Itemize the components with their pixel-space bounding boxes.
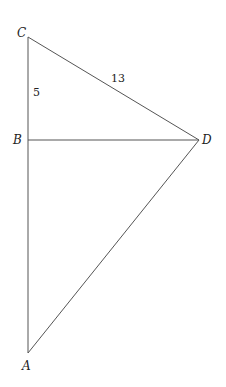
segment-cd bbox=[28, 37, 199, 140]
geometry-diagram: C B D A 5 13 bbox=[0, 0, 226, 387]
length-label-cb: 5 bbox=[33, 86, 40, 99]
point-label-c: C bbox=[17, 26, 26, 40]
point-label-a: A bbox=[21, 359, 31, 373]
point-label-d: D bbox=[201, 133, 212, 147]
segment-ad bbox=[28, 140, 199, 353]
length-label-cd: 13 bbox=[111, 72, 125, 85]
point-label-b: B bbox=[12, 133, 22, 147]
